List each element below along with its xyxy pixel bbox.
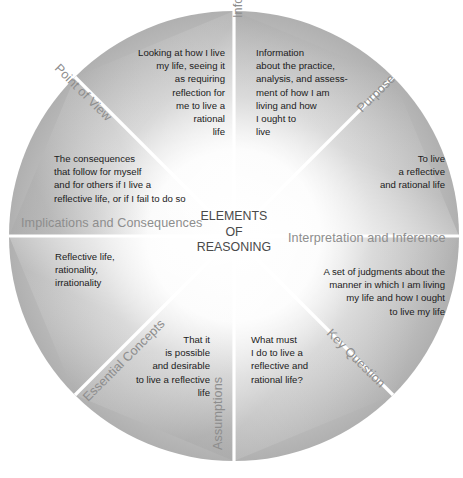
section-body-implications-and-consequences: The consequences that follow for myself … bbox=[54, 152, 259, 205]
elements-of-reasoning-wheel: Information Purpose Interpretation and I… bbox=[0, 0, 463, 478]
section-label-assumptions: Assumptions bbox=[212, 377, 225, 450]
section-body-purpose: To live a reflective and rational life bbox=[290, 152, 445, 192]
center-title: ELEMENTS OF REASONING bbox=[174, 209, 294, 256]
section-body-interpretation-and-inference: A set of judgments about the manner in w… bbox=[238, 265, 445, 318]
section-body-assumptions: That it is possible and desirable to liv… bbox=[80, 333, 210, 399]
section-label-information: Information bbox=[232, 0, 245, 18]
section-body-key-question: What must I do to live a reflective and … bbox=[251, 333, 371, 386]
section-body-information: Information about the practice, analysis… bbox=[256, 46, 396, 138]
section-label-interpretation-and-inference: Interpretation and Inference bbox=[288, 232, 446, 245]
section-body-essential-concepts: Reflective life, rationality, irrational… bbox=[55, 250, 205, 290]
section-body-point-of-view: Looking at how I live my life, seeing it… bbox=[90, 46, 225, 138]
